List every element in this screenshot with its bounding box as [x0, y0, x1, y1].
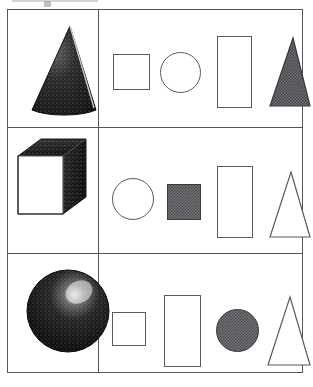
row-1-solid-cell	[8, 10, 98, 127]
option-circle-outline[interactable]	[112, 178, 154, 220]
row-3-solid-cell	[8, 254, 98, 373]
shape-grid-frame	[7, 9, 303, 373]
scan-artifact-bar	[12, 0, 98, 2]
option-rectangle-outline[interactable]	[217, 166, 253, 238]
option-rectangle-small-outline[interactable]	[112, 312, 146, 346]
row-3-options-cell	[99, 254, 303, 373]
cube-icon	[8, 128, 98, 253]
option-triangle-outline[interactable]	[267, 296, 311, 366]
sphere-icon	[8, 254, 98, 373]
option-circle-outline[interactable]	[160, 52, 201, 93]
option-triangle-outline[interactable]	[269, 171, 311, 238]
option-square-shaded[interactable]	[167, 184, 201, 220]
row-2-solid-cell	[8, 128, 98, 253]
option-square-outline[interactable]	[113, 54, 150, 90]
option-triangle-shaded[interactable]	[269, 37, 311, 107]
option-rectangle-tall-outline[interactable]	[164, 295, 201, 367]
option-circle-shaded[interactable]	[216, 309, 259, 352]
cone-icon	[8, 10, 98, 127]
figure-canvas	[0, 0, 313, 387]
scan-artifact-speck	[44, 1, 51, 7]
option-rectangle-outline[interactable]	[217, 36, 252, 108]
row-2-options-cell	[99, 128, 303, 253]
row-1-options-cell	[99, 10, 303, 127]
